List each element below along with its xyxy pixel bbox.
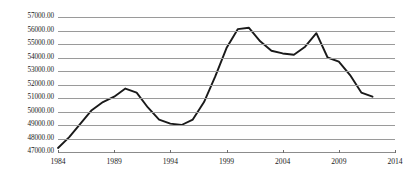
gridline — [58, 71, 395, 72]
gridline — [58, 17, 395, 18]
y-axis-tick-label: 53000.00 — [0, 67, 54, 74]
x-axis-tick-label: 2009 — [331, 158, 346, 166]
y-axis-tick-label: 47000.00 — [0, 148, 54, 155]
x-axis-tick-label: 2014 — [387, 158, 402, 166]
gridline — [58, 125, 395, 126]
y-axis-tick-label: 49000.00 — [0, 121, 54, 128]
gridline — [58, 31, 395, 32]
x-axis-tick-label: 1989 — [107, 158, 122, 166]
x-axis-tick-label: 1984 — [50, 158, 65, 166]
x-axis-tick-mark — [170, 150, 171, 153]
y-axis-tick-label: 57000.00 — [0, 13, 54, 20]
x-axis-tick-label: 1999 — [219, 158, 234, 166]
x-axis-tick-label: 1994 — [163, 158, 178, 166]
x-axis-tick-mark — [227, 150, 228, 153]
x-axis-tick-mark — [114, 150, 115, 153]
x-axis-tick-mark — [395, 150, 396, 153]
plot-area — [58, 17, 395, 152]
y-axis-tick-label: 56000.00 — [0, 27, 54, 34]
y-axis-tick-label: 54000.00 — [0, 54, 54, 61]
line-chart: 57000.0056000.0055000.0054000.0053000.00… — [0, 0, 411, 189]
x-axis-tick-label: 2004 — [275, 158, 290, 166]
gridline — [58, 85, 395, 86]
x-axis-tick-mark — [339, 150, 340, 153]
x-axis-tick-mark — [283, 150, 284, 153]
gridline — [58, 139, 395, 140]
gridline — [58, 44, 395, 45]
y-axis-tick-label: 55000.00 — [0, 40, 54, 47]
y-axis-tick-label: 48000.00 — [0, 135, 54, 142]
y-axis-tick-label: 50000.00 — [0, 108, 54, 115]
y-axis-tick-label: 52000.00 — [0, 81, 54, 88]
y-axis-tick-labels: 57000.0056000.0055000.0054000.0053000.00… — [0, 17, 54, 152]
x-axis-tick-mark — [58, 150, 59, 153]
gridline — [58, 98, 395, 99]
gridline — [58, 112, 395, 113]
series-line — [58, 28, 373, 148]
y-axis-tick-label: 51000.00 — [0, 94, 54, 101]
gridline — [58, 58, 395, 59]
x-axis-tick-labels: 1984198919941999200420092014 — [0, 158, 411, 172]
